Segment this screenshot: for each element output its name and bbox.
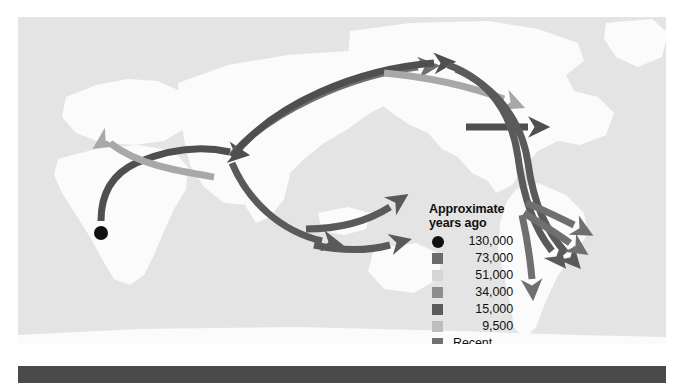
legend-swatch-key bbox=[429, 284, 446, 301]
legend-row: 15,000 bbox=[429, 301, 559, 318]
landmass-greenland bbox=[604, 19, 666, 67]
landmass-europe bbox=[62, 79, 190, 145]
legend-swatch-key bbox=[429, 250, 446, 267]
legend-dot-marker bbox=[432, 236, 444, 248]
legend-label: 34,000 bbox=[446, 284, 513, 301]
legend-swatch-key bbox=[429, 318, 446, 335]
legend-label: 15,000 bbox=[446, 301, 513, 318]
legend-swatch-key bbox=[429, 335, 446, 344]
legend-row: 34,000 bbox=[429, 284, 559, 301]
legend-label: Recent bbox=[446, 335, 515, 344]
landmass-north-america bbox=[348, 21, 614, 193]
legend-label: 130,000 bbox=[446, 233, 513, 250]
legend-swatch-key bbox=[429, 301, 446, 318]
route-line bbox=[314, 245, 390, 250]
landmass-antarctica bbox=[18, 327, 666, 344]
legend-entries: 130,00073,00051,00034,00015,0009,500Rece… bbox=[429, 233, 559, 344]
legend-row: Recent bbox=[429, 335, 559, 344]
legend-dot-key bbox=[429, 233, 446, 250]
legend-color-swatch bbox=[432, 287, 443, 298]
legend-color-swatch bbox=[432, 338, 443, 344]
legend-row: 130,000 bbox=[429, 233, 559, 250]
world-map-panel: Approximate years ago 130,00073,00051,00… bbox=[18, 17, 666, 344]
legend-label: 51,000 bbox=[446, 267, 513, 284]
legend-row: 9,500 bbox=[429, 318, 559, 335]
legend-label: 73,000 bbox=[446, 250, 513, 267]
legend-label: 9,500 bbox=[446, 318, 513, 335]
legend-color-swatch bbox=[432, 321, 443, 332]
legend-title: Approximate years ago bbox=[429, 202, 559, 230]
legend-color-swatch bbox=[432, 304, 443, 315]
bottom-bar bbox=[18, 366, 666, 383]
legend-color-swatch bbox=[432, 270, 443, 281]
legend-row: 73,000 bbox=[429, 250, 559, 267]
map-legend: Approximate years ago 130,00073,00051,00… bbox=[429, 202, 559, 344]
origin-point-africa bbox=[94, 226, 108, 240]
legend-swatch-key bbox=[429, 267, 446, 284]
legend-row: 51,000 bbox=[429, 267, 559, 284]
migration-map-figure: Approximate years ago 130,00073,00051,00… bbox=[0, 0, 693, 383]
map-graphic bbox=[18, 17, 666, 344]
legend-color-swatch bbox=[432, 253, 443, 264]
